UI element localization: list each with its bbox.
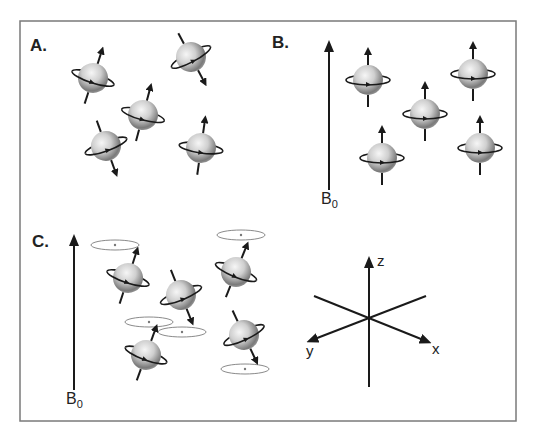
precession-cone-icon (125, 317, 173, 327)
panel-a-label: A. (30, 36, 47, 56)
panel-c-label: C. (32, 232, 49, 252)
nuclear-spin-icon (76, 113, 136, 181)
panel-b-label: B. (272, 33, 289, 53)
nuclear-spin-icon (99, 244, 158, 311)
nuclear-spin-icon (175, 116, 226, 178)
precession-cone-icon (217, 230, 265, 240)
b0-label-c: B0 (66, 390, 83, 410)
nuclear-spin-icon (458, 119, 502, 175)
nuclear-spin-icon (360, 129, 404, 185)
b0-symbol: B (66, 390, 77, 407)
axis-z-label: z (377, 252, 385, 269)
axis-y-label: y (306, 342, 314, 359)
nuclear-spin-icon (116, 320, 176, 388)
spins-layer (64, 23, 502, 388)
nmr-spin-figure (0, 0, 535, 437)
coordinate-axes (312, 262, 426, 387)
precession-cone-icon (221, 364, 269, 374)
nuclear-spin-icon (451, 45, 495, 101)
b0-label-b: B0 (321, 190, 338, 210)
b0-subscript: 0 (77, 398, 83, 410)
precession-cone-icon (91, 240, 139, 250)
nuclear-spin-icon (213, 301, 277, 370)
nuclear-spin-icon (150, 262, 212, 330)
nuclear-spin-icon (159, 23, 224, 93)
precession-cone-icon (158, 327, 206, 337)
nuclear-spin-icon (346, 51, 390, 107)
b0-symbol: B (321, 190, 332, 207)
nuclear-spin-icon (64, 44, 123, 111)
nuclear-spin-icon (403, 85, 447, 141)
b0-subscript: 0 (332, 198, 338, 210)
nuclear-spin-icon (205, 237, 267, 305)
axis-x-label: x (432, 340, 440, 357)
